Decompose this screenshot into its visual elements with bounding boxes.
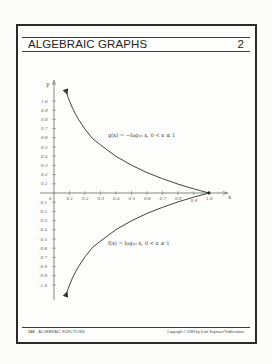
origin-label: 0 [49, 196, 52, 201]
svg-text:0.5: 0.5 [41, 145, 48, 150]
g-function-label: g(x) = −log₁₀ x, 0 < x ≤ 1 [108, 132, 175, 139]
footer-rule [22, 327, 250, 328]
svg-text:0.3: 0.3 [98, 196, 105, 201]
footer-copyright: Copyright © 1983 by Dale Seymour Publica… [167, 330, 244, 334]
svg-text:0.9: 0.9 [191, 198, 198, 203]
svg-text:0.7: 0.7 [160, 196, 167, 201]
y-ticks-negative: -0.1 -0.2 -0.3 -0.4 -0.5 -0.6 -0.7 -0.8 … [39, 200, 56, 288]
svg-text:-0.1: -0.1 [39, 200, 47, 205]
intersection-point [208, 192, 211, 195]
svg-text:-0.8: -0.8 [39, 264, 47, 269]
svg-text:0.2: 0.2 [41, 172, 48, 177]
svg-text:0.5: 0.5 [129, 196, 136, 201]
footer-page-number: 196 [28, 330, 35, 334]
svg-text:1.0: 1.0 [206, 196, 213, 201]
svg-text:-0.2: -0.2 [39, 209, 47, 214]
f-function-label: f(x) = log₁₀ x, 0 < x ≤ 1 [108, 240, 170, 247]
svg-text:-1.0: -1.0 [39, 283, 47, 288]
svg-text:-0.7: -0.7 [39, 255, 47, 260]
svg-text:-0.3: -0.3 [39, 218, 47, 223]
svg-text:-0.4: -0.4 [39, 227, 47, 232]
svg-text:0.4: 0.4 [113, 196, 120, 201]
footer-left: 196ALGEBRAIC FUNCTIONS [28, 330, 85, 334]
svg-text:0.1: 0.1 [41, 181, 48, 186]
graph: y x 0 1.0 0.9 0.8 0.7 0.6 0.5 0.4 0.3 0.… [0, 0, 272, 364]
svg-text:0.2: 0.2 [82, 196, 89, 201]
g-curve [66, 92, 209, 193]
svg-text:0.7: 0.7 [41, 126, 48, 131]
svg-text:0.9: 0.9 [41, 108, 48, 113]
svg-text:0.4: 0.4 [41, 154, 48, 159]
svg-text:0.8: 0.8 [41, 117, 48, 122]
svg-text:0.3: 0.3 [41, 163, 48, 168]
svg-text:-0.9: -0.9 [39, 273, 47, 278]
x-axis-label: x [228, 193, 232, 200]
svg-text:0.1: 0.1 [67, 196, 74, 201]
svg-text:-0.5: -0.5 [39, 237, 47, 242]
y-axis-label: y [45, 80, 50, 88]
svg-text:0.6: 0.6 [41, 135, 48, 140]
footer-section: ALGEBRAIC FUNCTIONS [39, 330, 85, 334]
svg-text:0.6: 0.6 [144, 196, 151, 201]
svg-text:-0.6: -0.6 [39, 246, 47, 251]
svg-text:0.8: 0.8 [175, 196, 182, 201]
svg-text:1.0: 1.0 [41, 99, 48, 104]
